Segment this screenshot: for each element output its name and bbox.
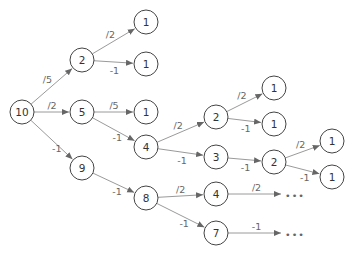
ellipsis-icon: ••• (285, 229, 305, 240)
edge: /2 (34, 100, 69, 113)
node-label: 10 (15, 106, 28, 118)
node-label: 1 (329, 171, 336, 183)
tree-node: 2 (70, 48, 94, 72)
node-label: 4 (213, 188, 220, 200)
node-label: 1 (271, 82, 278, 94)
edge-label: /5 (43, 74, 52, 85)
node-label: 2 (213, 111, 220, 123)
edge-label: -1 (179, 218, 188, 229)
node-label: 1 (143, 58, 150, 70)
edge-label: /2 (176, 184, 185, 195)
tree-node: 8 (134, 186, 158, 210)
edge: -1 (286, 165, 320, 183)
tree-node: 2 (204, 105, 228, 129)
edge-label: -1 (241, 162, 250, 173)
edge: -1 (157, 203, 205, 229)
node-label: 7 (213, 227, 220, 239)
node-label: 5 (79, 106, 86, 118)
edge-label: /2 (237, 90, 246, 101)
edge: -1 (228, 158, 261, 173)
continuations-layer: /2•••-1••• (228, 182, 305, 240)
edge-label: /2 (106, 29, 115, 40)
tree-node: 10 (10, 100, 34, 124)
edge: -1 (94, 61, 133, 76)
edge: /5 (94, 100, 133, 113)
edge-label: /2 (47, 100, 56, 111)
node-label: 1 (143, 16, 150, 28)
tree-node: 9 (70, 156, 94, 180)
edge: -1 (31, 120, 73, 159)
edge-label: -1 (252, 221, 261, 232)
tree-node: 1 (134, 100, 158, 124)
edge: -1 (228, 118, 261, 134)
edge-label: -1 (113, 132, 122, 143)
edge-label: -1 (110, 65, 119, 76)
edge: /2 (157, 120, 204, 143)
ellipsis-icon: ••• (285, 190, 305, 201)
edge-label: -1 (177, 155, 186, 166)
tree-node: 1 (134, 52, 158, 76)
edge-label: -1 (300, 172, 309, 183)
tree-node: 4 (134, 135, 158, 159)
continuation-edge: -1••• (228, 221, 305, 240)
node-label: 1 (143, 106, 150, 118)
edge: /2 (227, 90, 263, 112)
operation-tree-diagram: /5/2-1/2-1/5-1-1/2-1/2-1/2-1-1/2-1 /2•••… (0, 0, 354, 254)
node-label: 1 (271, 118, 278, 130)
tree-node: 3 (204, 145, 228, 169)
tree-node: 1 (320, 129, 344, 153)
tree-node: 4 (204, 182, 228, 206)
tree-node: 1 (262, 76, 286, 100)
tree-node: 7 (204, 221, 228, 245)
edge: -1 (158, 149, 203, 166)
edge-label: /2 (252, 182, 261, 193)
edge-label: -1 (241, 123, 250, 134)
node-label: 8 (143, 192, 150, 204)
edge: -1 (93, 118, 135, 143)
node-label: 4 (143, 141, 150, 153)
edge-label: -1 (52, 143, 61, 154)
edge: /2 (92, 29, 135, 54)
tree-node: 2 (262, 150, 286, 174)
tree-node: 1 (320, 165, 344, 189)
edge: /2 (158, 184, 203, 198)
tree-node: 1 (262, 112, 286, 136)
tree-node: 1 (134, 10, 158, 34)
edge-label: /5 (109, 100, 118, 111)
edge: -1 (93, 173, 134, 196)
node-label: 1 (329, 135, 336, 147)
tree-node: 5 (70, 100, 94, 124)
node-label: 3 (213, 151, 220, 163)
edge: /2 (285, 139, 319, 158)
edge-label: /2 (174, 120, 183, 131)
edge-label: -1 (112, 186, 121, 197)
edge-label: /2 (296, 139, 305, 150)
node-label: 9 (79, 162, 86, 174)
node-label: 2 (79, 54, 86, 66)
continuation-edge: /2••• (228, 182, 305, 201)
node-label: 2 (271, 156, 278, 168)
